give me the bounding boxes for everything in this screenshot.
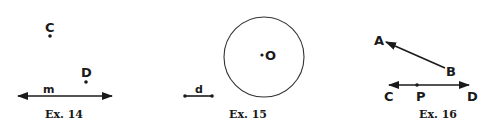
line-m-label: m [43, 83, 54, 96]
figure-ex-16: A B C P D Ex. 16 [374, 33, 478, 121]
line-cd: C P D [384, 83, 478, 104]
point-c-label: C [384, 89, 394, 104]
center-o-label: O [265, 48, 276, 63]
point-d-label: D [81, 65, 92, 80]
caption-ex-15: Ex. 15 [229, 108, 267, 121]
point-d-dot [84, 80, 88, 84]
segment-d: d [183, 83, 214, 98]
center-o: O [260, 48, 276, 63]
segment-d-endpoint-right [210, 94, 214, 98]
caption-ex-16: Ex. 16 [419, 108, 457, 121]
point-c-label: C [45, 20, 55, 35]
point-d-label: D [467, 89, 478, 104]
figure-ex-14: C D m Ex. 14 [18, 20, 112, 121]
point-c: C [45, 20, 55, 38]
circle [224, 17, 304, 97]
ray-ba: A B [374, 33, 456, 79]
point-a-label: A [374, 33, 384, 48]
segment-d-label: d [195, 83, 203, 96]
line-m: m [18, 83, 112, 96]
point-p-dot [415, 83, 419, 87]
center-o-dot [260, 53, 263, 56]
point-c-dot [48, 34, 52, 38]
figure-ex-15: O d Ex. 15 [183, 17, 304, 121]
point-p-label: P [416, 89, 426, 104]
geometry-exercises: C D m Ex. 14 O d Ex. 15 A [0, 0, 497, 127]
point-b-label: B [446, 64, 456, 79]
ray-ba-arrow [386, 42, 445, 68]
caption-ex-14: Ex. 14 [45, 108, 83, 121]
point-d: D [81, 65, 92, 84]
segment-d-endpoint-left [183, 94, 187, 98]
